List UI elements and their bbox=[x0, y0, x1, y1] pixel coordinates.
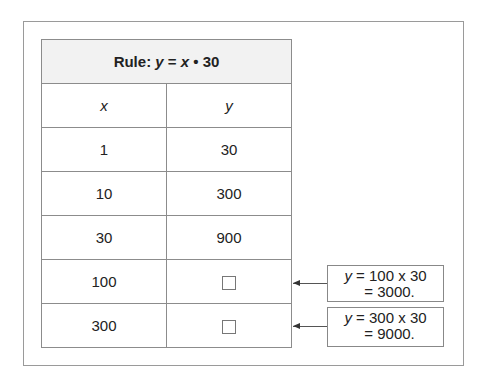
cell-y: 300 bbox=[167, 172, 292, 216]
cell-y-blank bbox=[167, 260, 292, 304]
table-row: 100 bbox=[42, 260, 292, 304]
rule-var-y: y bbox=[155, 53, 163, 70]
cell-y: 900 bbox=[167, 216, 292, 260]
arrow-left-icon bbox=[293, 283, 327, 284]
rule-header: Rule: y = x • 30 bbox=[42, 40, 292, 84]
rule-multiplier: • 30 bbox=[189, 53, 219, 70]
table-row: 300 bbox=[42, 304, 292, 348]
table-row: 30 900 bbox=[42, 216, 292, 260]
table-row: 1 30 bbox=[42, 128, 292, 172]
rule-label: Rule: bbox=[114, 53, 156, 70]
cell-y: 30 bbox=[167, 128, 292, 172]
arrow-left-icon bbox=[293, 326, 327, 327]
table-row: 10 300 bbox=[42, 172, 292, 216]
answer-box[interactable] bbox=[222, 320, 236, 334]
callout-box: y = 300 x 30 = 9000. bbox=[327, 307, 444, 347]
column-header-y: y bbox=[167, 84, 292, 128]
callout-line-2: = 9000. bbox=[328, 326, 443, 342]
callout-var: y bbox=[344, 267, 352, 284]
answer-box[interactable] bbox=[222, 276, 236, 290]
callout-expr: = 100 x 30 bbox=[352, 267, 427, 284]
cell-x: 300 bbox=[42, 304, 167, 348]
callout-expr: = 300 x 30 bbox=[352, 309, 427, 326]
cell-x: 1 bbox=[42, 128, 167, 172]
callout-box: y = 100 x 30 = 3000. bbox=[327, 265, 444, 302]
column-header-x: x bbox=[42, 84, 167, 128]
callout-line-1: y = 300 x 30 bbox=[328, 310, 443, 326]
rule-equals: = bbox=[164, 53, 181, 70]
cell-x: 10 bbox=[42, 172, 167, 216]
cell-x: 100 bbox=[42, 260, 167, 304]
callout-var: y bbox=[344, 309, 352, 326]
function-table: Rule: y = x • 30 x y 1 30 10 300 30 900 … bbox=[41, 39, 292, 348]
rule-var-x: x bbox=[181, 53, 189, 70]
cell-x: 30 bbox=[42, 216, 167, 260]
callout-line-1: y = 100 x 30 bbox=[328, 268, 443, 284]
callout-line-2: = 3000. bbox=[328, 284, 443, 300]
cell-y-blank bbox=[167, 304, 292, 348]
